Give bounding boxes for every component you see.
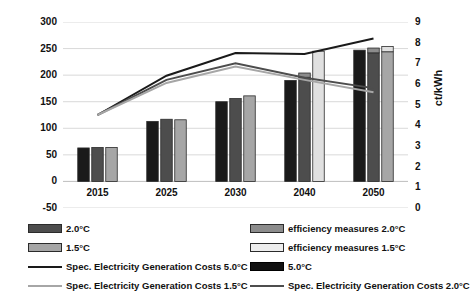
legend-item-label: efficiency measures 2.0°C [288,224,405,234]
legend-item-label: Spec. Electricity Generation Costs 1.5°C [66,281,248,291]
legend-item[interactable]: 5.0°C [250,259,312,274]
chart-figure: billion $ ct/kWh 300250200150100500-50 9… [0,0,471,303]
y-tick-label-right: 9 [415,16,439,27]
y-tick-label-left: 150 [25,96,57,107]
legend-item[interactable]: Spec. Electricity Generation Costs 5.0°C [28,259,248,274]
y-tick-label-right: 6 [415,78,439,89]
y-tick-label-left: 250 [25,43,57,54]
legend-swatch-key [250,224,284,233]
bar [175,120,187,182]
y-tick-label-left: 100 [25,122,57,133]
legend-swatch-key [28,224,62,233]
y-tick-label-left: 0 [25,175,57,186]
legend-item-label: 2.0°C [66,224,90,234]
y-tick-label-right: 2 [415,161,439,172]
legend-swatch-key [28,243,62,252]
y-tick-label-left: -50 [25,202,57,213]
y-tick-label-right: 3 [415,140,439,151]
legend-line-key [250,285,284,287]
bar-stack-segment [313,51,325,181]
bar [161,119,173,181]
bar [368,53,380,182]
legend-item-label: Spec. Electricity Generation Costs 2.0°C [288,281,470,291]
y-tick-label-right: 8 [415,37,439,48]
legend-item-label: Spec. Electricity Generation Costs 5.0°C [66,262,248,272]
legend-swatch-key [250,243,284,252]
bar [285,80,297,181]
legend-item[interactable]: 2.0°C [28,221,90,236]
legend-item-label: 5.0°C [288,262,312,272]
bar [354,50,366,181]
bar [230,99,242,182]
y-tick-label-right: 4 [415,119,439,130]
legend-item-label: 1.5°C [66,243,90,253]
bar [244,96,256,182]
bar-stack-segment [368,48,380,53]
legend-item[interactable]: Spec. Electricity Generation Costs 2.0°C [250,278,470,293]
legend-item[interactable]: efficiency measures 1.5°C [250,240,405,255]
legend-swatch-key [250,262,284,271]
y-tick-label-left: 200 [25,69,57,80]
chart-legend: 2.0°Cefficiency measures 2.0°C1.5°Ceffic… [28,221,468,299]
plot-area [63,22,408,208]
legend-item-label: efficiency measures 1.5°C [288,243,405,253]
legend-item[interactable]: efficiency measures 2.0°C [250,221,405,236]
bar [216,102,228,182]
bar [92,147,104,181]
y-tick-label-right: 1 [415,181,439,192]
y-tick-label-left: 300 [25,16,57,27]
bar [78,148,90,181]
legend-line-key [28,266,62,268]
y-tick-label-left: 50 [25,149,57,160]
y-tick-label-right: 0 [415,202,439,213]
y-tick-label-right: 7 [415,57,439,68]
bar-stack-segment [382,46,394,51]
legend-line-key [28,285,62,287]
bar [147,121,159,181]
legend-item[interactable]: 1.5°C [28,240,90,255]
legend-item[interactable]: Spec. Electricity Generation Costs 1.5°C [28,278,248,293]
bar [299,77,311,181]
plot-svg [63,22,408,208]
y-tick-label-right: 5 [415,99,439,110]
bar [382,52,394,182]
bar [106,147,118,181]
